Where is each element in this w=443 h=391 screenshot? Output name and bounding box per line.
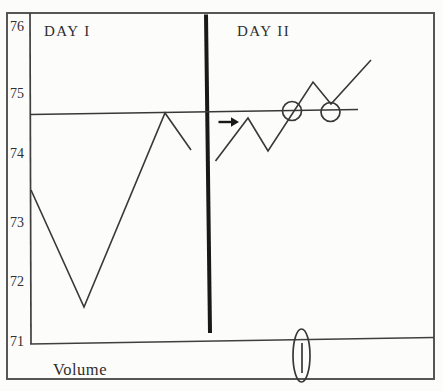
day1-price-line [31,113,191,307]
y-tick-72: 72 [10,275,24,289]
outer-border [7,13,434,379]
day2-label: DAY II [237,24,290,39]
retest-circle [321,103,340,122]
day-divider [206,15,210,334]
y-tick-75: 75 [10,87,24,101]
breakout-arrow-head [231,117,239,127]
y-tick-71: 71 [10,335,24,349]
y-tick-76: 76 [10,20,24,34]
y-tick-73: 73 [10,216,24,230]
price-y-axis [30,13,31,344]
volume-panel-label: Volume [53,362,107,379]
y-tick-74: 74 [10,147,24,161]
price-volume-figure: DAY I DAY II Volume 76 75 74 73 72 71 [0,0,443,391]
day1-label: DAY I [44,24,91,39]
resistance-line [30,110,358,115]
price-bottom-axis [30,338,434,345]
price-volume-chart [0,0,443,391]
